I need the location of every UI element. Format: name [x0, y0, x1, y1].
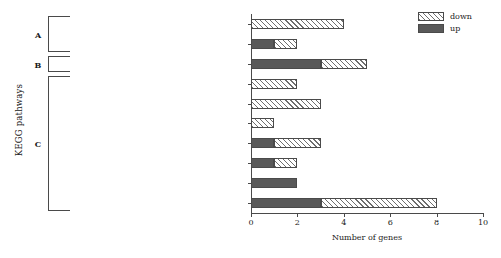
x-axis-tick	[297, 213, 298, 217]
x-axis-tick	[390, 213, 391, 217]
x-axis-line	[251, 213, 483, 214]
x-axis-tick	[437, 213, 438, 217]
x-axis-tick-label: 0	[240, 218, 262, 227]
group-bracket-a	[48, 16, 70, 52]
x-axis-tick	[483, 213, 484, 217]
legend-swatch-up-icon	[418, 24, 444, 33]
group-label-b: B	[32, 60, 44, 70]
x-axis-tick-label: 10	[472, 218, 494, 227]
bar-segment-down	[251, 19, 344, 29]
legend-item-down: down	[418, 11, 472, 22]
plot-area: 0246810 Number of genes	[251, 14, 483, 213]
bar-segment-down	[251, 99, 321, 109]
group-bracket-b	[48, 56, 70, 72]
bar-segment-down	[321, 198, 437, 208]
bar-segment-down	[274, 39, 297, 49]
legend-label-down: down	[450, 13, 472, 21]
bar-segment-down	[251, 118, 274, 128]
x-axis-tick-label: 4	[333, 218, 355, 227]
bar-segment-down	[274, 158, 297, 168]
bar-segment-up	[251, 138, 274, 148]
x-axis-tick	[344, 213, 345, 217]
legend-item-up: up	[418, 23, 472, 34]
x-axis-tick-label: 2	[286, 218, 308, 227]
x-axis-tick-label: 6	[379, 218, 401, 227]
group-bracket-c	[48, 76, 70, 211]
group-label-c: C	[32, 139, 44, 149]
bar-segment-up	[251, 39, 274, 49]
bar-segment-down	[251, 79, 297, 89]
bar-segment-up	[251, 198, 321, 208]
legend-label-up: up	[450, 25, 460, 33]
x-axis-title: Number of genes	[251, 233, 483, 242]
x-axis-tick-label: 8	[426, 218, 448, 227]
bar-segment-down	[321, 59, 367, 69]
bar-segment-up	[251, 59, 321, 69]
y-axis-title: KEGG pathways	[14, 75, 24, 165]
chart-figure: KEGG pathways ABC 0246810 Number of gene…	[0, 0, 501, 258]
bar-segment-down	[274, 138, 320, 148]
x-axis-tick	[251, 213, 252, 217]
legend: down up	[418, 11, 472, 35]
bar-segment-up	[251, 158, 274, 168]
bar-segment-up	[251, 178, 297, 188]
group-label-a: A	[32, 30, 44, 40]
legend-swatch-down-icon	[418, 12, 444, 21]
